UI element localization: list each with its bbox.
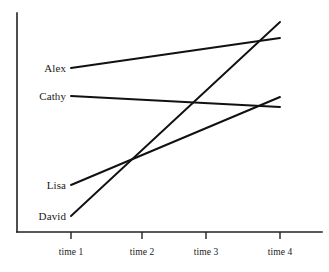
line-chart: Alex Cathy Lisa David time 1 time 2 time… [0,0,329,272]
x-tick-marks [71,232,280,239]
x-tick-label-time-4: time 4 [268,247,293,257]
series-line-alex [71,38,280,68]
x-tick-label-time-3: time 3 [194,247,219,257]
series-label-david: David [39,211,66,222]
series-label-lisa: Lisa [47,180,66,191]
series-line-lisa [71,97,280,185]
series-line-david [71,22,280,216]
x-tick-label-time-1: time 1 [59,247,84,257]
series-line-cathy [71,96,280,107]
x-tick-label-time-2: time 2 [130,247,155,257]
chart-canvas [0,0,329,272]
series-lines [71,22,280,216]
series-label-alex: Alex [44,63,66,74]
series-label-cathy: Cathy [39,91,66,102]
